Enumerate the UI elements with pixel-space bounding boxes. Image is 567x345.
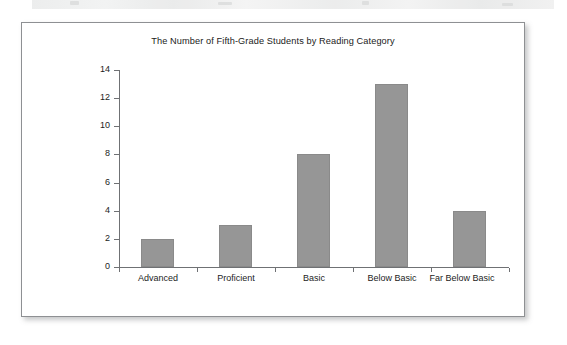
y-axis-tick: 4 — [114, 211, 119, 212]
x-axis-tick — [509, 268, 510, 272]
y-axis-tick: 8 — [114, 154, 119, 155]
bar-below-basic — [375, 84, 408, 267]
x-axis-line — [119, 267, 509, 268]
x-axis-tick — [353, 268, 354, 272]
chart-title: The Number of Fifth-Grade Students by Re… — [22, 36, 524, 46]
y-axis-tick-label: 4 — [105, 205, 110, 215]
y-axis-tick-label: 8 — [105, 148, 110, 158]
y-axis-tick-label: 6 — [105, 177, 110, 187]
bar-far-below-basic — [453, 211, 486, 267]
bar-proficient — [219, 225, 252, 267]
x-axis-label-proficient: Proficient — [193, 273, 279, 285]
x-axis-tick — [275, 268, 276, 272]
y-axis-tick: 12 — [114, 98, 119, 99]
y-axis-tick: 6 — [114, 183, 119, 184]
y-axis-tick-label: 0 — [105, 261, 110, 271]
x-axis-tick — [431, 268, 432, 272]
bar-basic — [297, 154, 330, 267]
chart-figure-box: The Number of Fifth-Grade Students by Re… — [21, 22, 525, 317]
y-axis-tick-label: 12 — [100, 92, 110, 102]
x-axis-tick — [119, 268, 120, 272]
y-axis-line — [119, 70, 120, 267]
y-axis-tick: 10 — [114, 126, 119, 127]
plot-area: 0 2 4 6 8 10 12 14 — [98, 63, 510, 298]
y-axis-tick-label: 14 — [100, 64, 110, 74]
x-axis-tick — [197, 268, 198, 272]
x-axis-label-far-below-basic: Far Below Basic — [427, 273, 497, 285]
y-axis-tick-label: 2 — [105, 233, 110, 243]
x-axis-label-below-basic: Below Basic — [349, 273, 435, 285]
y-axis-tick: 2 — [114, 239, 119, 240]
y-axis-tick-label: 10 — [100, 120, 110, 130]
y-axis-tick: 14 — [114, 70, 119, 71]
x-axis-label-advanced: Advanced — [115, 273, 201, 285]
x-axis-label-basic: Basic — [271, 273, 357, 285]
scan-artifact-band — [32, 0, 554, 9]
bar-advanced — [141, 239, 174, 267]
